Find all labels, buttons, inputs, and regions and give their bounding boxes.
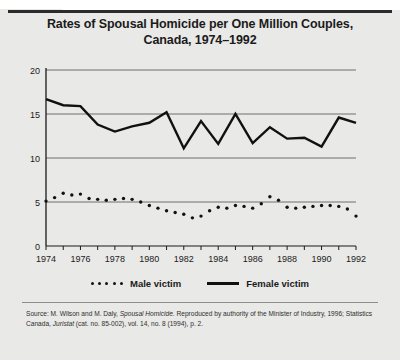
series-dot [87, 197, 90, 200]
series-dot [199, 214, 202, 217]
series-dot [311, 205, 314, 208]
legend-label-male: Male victim [130, 278, 181, 289]
series-dot [113, 198, 116, 201]
source-line2-plain-b: (cat. no. 85-002), vol. 14, no. 8 (1994)… [74, 320, 203, 327]
x-tick-label-1980: 1980 [139, 254, 159, 264]
series-dot [337, 205, 340, 208]
series-dot [122, 197, 125, 200]
source-note: Source: M. Wilson and M. Daly, Spousal H… [26, 309, 378, 328]
series-dot [191, 216, 194, 219]
series-dot [44, 199, 47, 202]
series-dot [62, 192, 65, 195]
title-line-1: Rates of Spousal Homicide per One Millio… [8, 16, 392, 32]
series-dot [130, 198, 133, 201]
x-tick-label-1982: 1982 [174, 254, 194, 264]
x-tick-label-1984: 1984 [208, 254, 228, 264]
series-dot [70, 193, 73, 196]
legend-item-female: Female victim [207, 278, 309, 289]
series-dot [208, 209, 211, 212]
source-line1-plain-a: Source: M. Wilson and M. Daly, [26, 310, 120, 317]
title-line-2: Canada, 1974–1992 [8, 32, 392, 48]
series-dot [79, 192, 82, 195]
series-dot [53, 196, 56, 199]
x-tick-label-1988: 1988 [277, 254, 297, 264]
source-line2-italic-a: Juristat [53, 320, 74, 327]
series-dot [173, 211, 176, 214]
x-tick-label-1986: 1986 [243, 254, 263, 264]
series-dot [277, 199, 280, 202]
x-tick-label-1974: 1974 [36, 254, 56, 264]
source-line1-italic-a: Spousal Homicide [120, 310, 173, 317]
series-dot [139, 200, 142, 203]
legend-item-male: Male victim [91, 278, 181, 289]
x-tick-label-1976: 1976 [70, 254, 90, 264]
y-tick-label-0: 0 [35, 242, 40, 252]
series-dot [294, 206, 297, 209]
x-tick-label-1978: 1978 [105, 254, 125, 264]
series-dot [285, 206, 288, 209]
series-dot [225, 206, 228, 209]
series-dot [165, 209, 168, 212]
figure-container: FIGURE 4.1 Rates of Spousal Homicide per… [0, 0, 400, 360]
x-tick-label-1990: 1990 [312, 254, 332, 264]
y-tick-label-20: 20 [30, 66, 40, 76]
series-dot [96, 198, 99, 201]
series-dot [234, 204, 237, 207]
series-dot [354, 214, 357, 217]
chart-legend: Male victim Female victim [0, 278, 400, 289]
source-divider [22, 302, 378, 303]
x-tick-label-1992: 1992 [346, 254, 366, 264]
series-dot [105, 199, 108, 202]
series-dot [217, 206, 220, 209]
line-chart-svg: 0510152019741976197819801982198419861988… [0, 56, 400, 271]
solid-line-icon [207, 282, 239, 285]
source-line1-plain-b: . Reproduced by authority of the Ministe… [173, 310, 344, 317]
series-dot [156, 206, 159, 209]
series-dot [182, 213, 185, 216]
dotted-line-icon [91, 280, 123, 288]
y-tick-label-15: 15 [30, 110, 40, 120]
y-tick-label-5: 5 [35, 198, 40, 208]
series-dot [242, 205, 245, 208]
chart-plot-area: 0510152019741976197819801982198419861988… [0, 56, 400, 271]
series-dot [251, 206, 254, 209]
figure-title: Rates of Spousal Homicide per One Millio… [8, 16, 392, 48]
series-dot [328, 204, 331, 207]
bottom-padding [0, 340, 400, 360]
series-dot [268, 195, 271, 198]
series-dot [148, 204, 151, 207]
plot-background [0, 56, 400, 271]
header-rule [8, 10, 392, 13]
series-dot [260, 202, 263, 205]
series-dot [320, 204, 323, 207]
series-dot [303, 206, 306, 209]
legend-label-female: Female victim [246, 278, 309, 289]
series-dot [346, 207, 349, 210]
top-white-band-right [62, 0, 400, 10]
y-tick-label-10: 10 [30, 154, 40, 164]
